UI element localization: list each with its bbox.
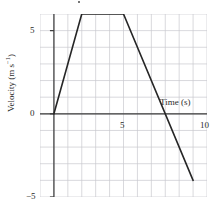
top-tick-mark [78,1,80,3]
y-axis-title-close: ) [6,54,16,57]
x-tick-label-10: 10 [200,121,209,130]
velocity-time-chart: 5 0 −5 5 10 Time (s) Velocity (m s−1) [0,0,222,211]
y-axis-title: Velocity (m s−1) [4,54,16,112]
x-axis-title-text: Time (s) [160,97,190,107]
y-tick-label-minus5: −5 [26,192,36,201]
y-axis-title-exponent: −1 [4,57,11,64]
y-tick-label-5: 5 [30,26,35,35]
y-tick-label-0: 0 [30,109,35,118]
x-axis-title: Time (s) [160,97,190,107]
x-tick-label-5: 5 [120,121,125,130]
y-axis-title-text: Velocity (m s [6,64,16,112]
